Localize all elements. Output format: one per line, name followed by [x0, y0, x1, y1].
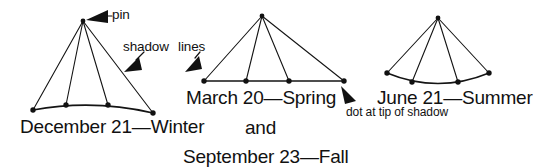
pin-point-summer: [436, 16, 441, 21]
shadow-plot-graphic: [0, 0, 539, 168]
panel-label-and: and: [245, 118, 276, 137]
shadow-line-summer-1: [387, 18, 438, 73]
annotation-shadow: shadow: [123, 40, 169, 54]
panel-summer: [384, 16, 491, 85]
shadow-tip-dot: [63, 102, 68, 107]
shadow-line-summer-4: [438, 18, 489, 73]
shadow-tip-dot: [243, 78, 248, 83]
annotation-dot-at-tip: dot at tip of shadow: [346, 106, 448, 118]
panel-label-fall: September 23—Fall: [183, 147, 349, 166]
pin-point-spring: [260, 14, 265, 19]
shadow-tip-dot: [30, 107, 35, 112]
shadow-line-winter-3: [83, 21, 108, 105]
shadow-tip-curve-summer: [387, 73, 489, 84]
annotation-pin: pin: [112, 8, 130, 22]
shadow-tip-dot: [105, 102, 110, 107]
tip-callout-arrow: [341, 86, 356, 104]
pin-point-winter: [81, 19, 86, 24]
shadow-line-winter-4: [83, 21, 153, 113]
shadow-tip-dot: [486, 70, 491, 75]
shadow-tip-dot: [455, 79, 460, 84]
tip-arrow-icon: [341, 86, 356, 104]
annotation-lines: lines: [178, 40, 205, 54]
shadow-line-summer-3: [438, 18, 458, 82]
lines-callout-arrow: [185, 52, 202, 72]
shadow-line-winter-2: [66, 21, 83, 105]
panel-spring-fall: [201, 14, 346, 84]
pin-callout-arrow: [86, 10, 112, 23]
shadow-line-spring-4: [262, 16, 344, 81]
shadow-tip-dot: [384, 70, 389, 75]
shadow-arrow-icon: [124, 57, 142, 72]
shadow-line-spring-3: [262, 16, 289, 81]
shadow-tip-dot: [150, 110, 155, 115]
shadow-tip-dot: [201, 78, 206, 83]
shadow-line-winter-1: [33, 21, 83, 110]
shadow-callout-arrow: [124, 52, 144, 72]
shadow-tip-dot: [341, 78, 346, 83]
lines-arrow-icon: [185, 56, 202, 72]
panel-label-winter: December 21—Winter: [20, 117, 204, 136]
figure-canvas: December 21—Winter March 20—Spring and S…: [0, 0, 539, 168]
panel-label-spring: March 20—Spring: [186, 88, 336, 107]
pin-arrow-icon: [86, 10, 108, 23]
shadow-line-summer-2: [412, 18, 438, 82]
shadow-tip-dot: [286, 78, 291, 83]
shadow-tip-curve-winter: [33, 105, 153, 113]
shadow-tip-dot: [409, 79, 414, 84]
shadow-line-spring-1: [204, 16, 262, 81]
